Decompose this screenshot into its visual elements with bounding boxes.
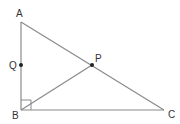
point-q-dot xyxy=(19,63,23,67)
label-a: A xyxy=(16,8,23,19)
label-c: C xyxy=(168,109,175,120)
segment-bp xyxy=(21,65,92,110)
label-q: Q xyxy=(9,60,17,71)
point-p-dot xyxy=(90,63,94,67)
label-b: B xyxy=(12,110,19,121)
triangle-diagram: A Q B P C xyxy=(0,0,180,124)
label-p: P xyxy=(95,53,102,64)
